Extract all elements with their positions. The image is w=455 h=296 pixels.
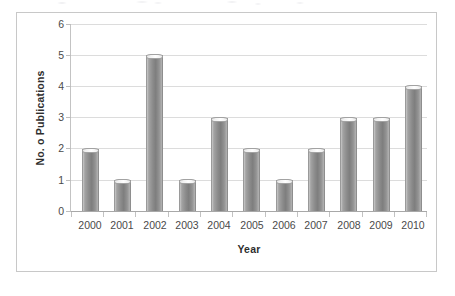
bar-cap: [179, 179, 196, 184]
bar-2010: [405, 86, 422, 211]
x-tick-mark: [168, 212, 169, 217]
bar-2000: [82, 149, 99, 211]
bar-2007: [308, 149, 325, 211]
y-tick-label: 6: [44, 19, 64, 29]
bar-2008: [340, 118, 357, 212]
bar-cap: [146, 54, 163, 59]
x-tick-label-2001: 2001: [106, 219, 138, 231]
bar-series: [71, 24, 427, 211]
x-tick-label-2003: 2003: [171, 219, 203, 231]
bar-cap: [308, 148, 325, 153]
x-tick-mark: [135, 212, 136, 217]
y-tick-label: 2: [44, 143, 64, 153]
x-tick-mark: [71, 212, 72, 217]
x-tick-label-2002: 2002: [139, 219, 171, 231]
bar-2005: [243, 149, 260, 211]
bar-2006: [276, 180, 293, 211]
bar-cap: [405, 85, 422, 90]
x-tick-mark: [200, 212, 201, 217]
bar-cap: [211, 117, 228, 122]
x-tick-mark: [329, 212, 330, 217]
x-axis-tick-labels: 2000 2001 2002 2003 2004 2005 2006 2007 …: [71, 219, 427, 235]
x-tick-mark: [232, 212, 233, 217]
x-tick-mark: [426, 212, 427, 217]
bar-2002: [146, 55, 163, 211]
x-tick-label-2009: 2009: [365, 219, 397, 231]
x-tick-label-2006: 2006: [268, 219, 300, 231]
y-tick-label: 1: [44, 175, 64, 185]
x-axis-title: Year: [71, 243, 427, 255]
bar-cap: [243, 148, 260, 153]
bar-cap: [82, 148, 99, 153]
x-tick-label-2000: 2000: [74, 219, 106, 231]
x-axis-line: [70, 211, 427, 212]
x-tick-label-2005: 2005: [236, 219, 268, 231]
bar-2001: [114, 180, 131, 211]
bar-2003: [179, 180, 196, 211]
x-tick-label-2008: 2008: [333, 219, 365, 231]
x-tick-label-2007: 2007: [300, 219, 332, 231]
y-tick-label: 3: [44, 112, 64, 122]
x-tick-mark: [265, 212, 266, 217]
bar-cap: [373, 117, 390, 122]
x-tick-mark: [362, 212, 363, 217]
y-axis-title: No. o Publications: [34, 38, 46, 198]
x-tick-label-2004: 2004: [203, 219, 235, 231]
bar-2009: [373, 118, 390, 212]
x-tick-mark: [103, 212, 104, 217]
x-tick-mark: [394, 212, 395, 217]
y-tick-label: 4: [44, 81, 64, 91]
bar-cap: [276, 179, 293, 184]
x-tick-mark: [297, 212, 298, 217]
y-tick-label: 5: [44, 50, 64, 60]
y-tick-label: 0: [44, 206, 64, 216]
bar-cap: [114, 179, 131, 184]
x-tick-label-2010: 2010: [397, 219, 429, 231]
bar-chart: 6 5 4 3 2 1 0 No. o Publications 2000 20…: [0, 0, 455, 296]
bar-cap: [340, 117, 357, 122]
bar-2004: [211, 118, 228, 212]
